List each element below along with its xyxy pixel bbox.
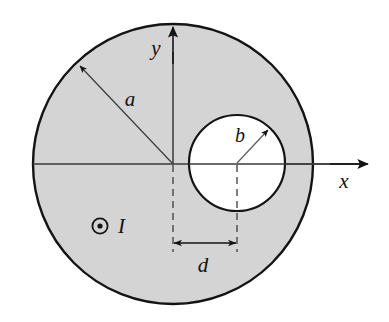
label-offset-d: d [198, 253, 209, 277]
physics-figure: y x a b I d [0, 0, 389, 322]
label-radius-a: a [125, 87, 136, 111]
label-current: I [117, 214, 126, 238]
axis-label-x: x [338, 169, 349, 193]
figure-canvas: y x a b I d [0, 0, 389, 322]
axis-label-y: y [149, 36, 161, 60]
label-radius-b: b [235, 124, 245, 146]
current-direction-dot-icon [97, 223, 102, 228]
